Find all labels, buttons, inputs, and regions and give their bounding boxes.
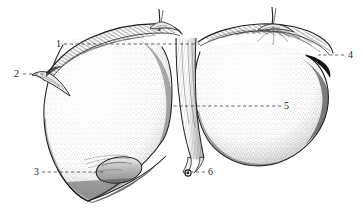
round-ligament xyxy=(183,157,204,176)
label-4: 4 xyxy=(348,50,353,60)
label-2: 2 xyxy=(14,69,19,79)
liver-drawing-canvas xyxy=(0,0,363,221)
superior-attachment-stalk-centre xyxy=(150,9,178,31)
label-3: 3 xyxy=(34,167,39,177)
label-5: 5 xyxy=(284,101,289,111)
label-1: 1 xyxy=(56,39,61,49)
liver-illustration-figure: 1 2 3 4 5 6 xyxy=(0,0,363,221)
label-6: 6 xyxy=(208,167,213,177)
right-lobe xyxy=(185,30,345,180)
